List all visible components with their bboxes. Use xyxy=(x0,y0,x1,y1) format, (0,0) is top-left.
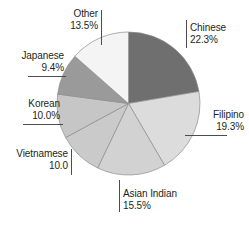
leader-line-japanese xyxy=(28,76,66,77)
slice-label-korean-name: Korean xyxy=(4,98,60,110)
leader-line-vietnamese xyxy=(71,149,72,175)
slice-label-vietnamese-value: 10.0 xyxy=(2,160,68,172)
slice-label-japanese: Japanese 9.4% xyxy=(6,50,64,74)
slice-label-japanese-value: 9.4% xyxy=(6,62,64,74)
leader-line-other xyxy=(101,10,102,45)
pie-chart-figure: Other 13.5% Japanese 9.4% Korean 10.0% V… xyxy=(0,0,249,228)
slice-label-chinese-name: Chinese xyxy=(190,22,246,34)
slice-label-vietnamese-name: Vietnamese xyxy=(2,148,68,160)
slice-label-filipino-name: Filipino xyxy=(186,109,244,121)
slice-label-korean: Korean 10.0% xyxy=(4,98,60,122)
slice-label-other-name: Other xyxy=(46,8,98,20)
slice-label-chinese-value: 22.3% xyxy=(190,34,246,46)
slice-label-filipino-value: 19.3% xyxy=(186,121,244,133)
slice-label-vietnamese: Vietnamese 10.0 xyxy=(2,148,68,172)
leader-line-asian-indian xyxy=(119,180,120,212)
leader-line-filipino xyxy=(185,135,227,136)
leader-line-chinese xyxy=(186,20,187,48)
slice-label-korean-value: 10.0% xyxy=(4,110,60,122)
pie-slice-chinese xyxy=(129,32,199,104)
slice-label-filipino: Filipino 19.3% xyxy=(186,109,244,133)
slice-label-other: Other 13.5% xyxy=(46,8,98,32)
slice-label-asian-indian-value: 15.5% xyxy=(123,200,193,212)
slice-label-japanese-name: Japanese xyxy=(6,50,64,62)
slice-label-chinese: Chinese 22.3% xyxy=(190,22,246,46)
slice-label-asian-indian-name: Asian Indian xyxy=(123,188,193,200)
slice-label-other-value: 13.5% xyxy=(46,20,98,32)
leader-line-korean xyxy=(23,124,63,125)
slice-label-asian-indian: Asian Indian 15.5% xyxy=(123,188,193,212)
pie-slices xyxy=(57,32,200,175)
